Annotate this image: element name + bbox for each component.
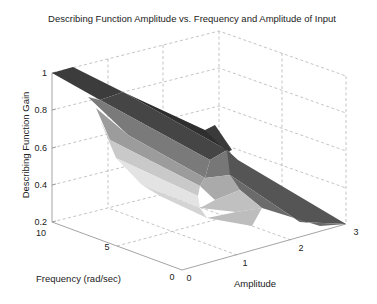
- surface: [52, 67, 346, 226]
- svg-text:1: 1: [42, 68, 47, 78]
- svg-text:0: 0: [186, 273, 191, 283]
- svg-text:0.4: 0.4: [34, 180, 47, 190]
- gain-axis-label: Describing Function Gain: [20, 92, 31, 199]
- svg-text:0.6: 0.6: [34, 143, 47, 153]
- svg-text:0: 0: [169, 272, 174, 282]
- z-tick-labels: 1 0.8 0.6 0.4 0.2: [34, 68, 47, 227]
- svg-text:0.8: 0.8: [34, 105, 47, 115]
- amplitude-axis-label: Amplitude: [234, 278, 276, 289]
- chart-title: Describing Function Amplitude vs. Freque…: [48, 13, 336, 24]
- svg-text:2: 2: [298, 243, 303, 253]
- svg-text:1: 1: [242, 258, 247, 268]
- x-tick-labels: 0 1 2 3: [186, 227, 358, 283]
- svg-text:5: 5: [104, 242, 109, 252]
- surface-chart: Describing Function Amplitude vs. Freque…: [0, 0, 377, 304]
- svg-text:10: 10: [36, 228, 46, 238]
- frequency-axis-label: Frequency (rad/sec): [36, 273, 121, 284]
- svg-text:0.2: 0.2: [34, 217, 47, 227]
- svg-text:3: 3: [353, 227, 358, 237]
